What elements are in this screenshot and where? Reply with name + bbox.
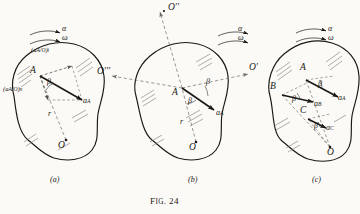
resultant-sub-a: A <box>87 98 90 104</box>
omega-label-a: ω <box>62 34 68 42</box>
beta-arc-b-upper <box>205 86 208 96</box>
alpha-label-a: α <box>62 25 66 33</box>
a-A-sub-c: A <box>342 95 345 101</box>
caption-smallcaps: IG <box>155 198 163 206</box>
axis-label-O-triple-prime-b: O′′′ <box>97 67 110 77</box>
axis-O-double-prime-b <box>160 12 182 88</box>
ref-dir-C-c <box>308 114 330 119</box>
resultant-label-a: aA <box>83 97 90 105</box>
point-label-A-a: A <box>30 66 36 76</box>
point-label-A-b: A <box>172 88 178 98</box>
axis-label-O-prime-b: O′ <box>249 63 258 73</box>
alpha-arrow-a <box>30 31 60 35</box>
panel-label-c: (c) <box>312 176 321 184</box>
radius-line-a <box>40 76 66 140</box>
radius-label-b: r <box>180 118 183 126</box>
beta-label-A-c: β <box>318 80 322 88</box>
alpha-label-c: α <box>328 25 332 33</box>
panel-b-drawing <box>112 10 248 160</box>
alpha-label-b: α <box>238 25 242 33</box>
normal-component-label-a: (aA/O)n <box>3 86 22 93</box>
panel-c-drawing <box>269 29 359 161</box>
point-label-B-c: B <box>270 82 276 92</box>
axis-O-prime-b <box>182 74 248 88</box>
omega-label-b: ω <box>238 34 244 42</box>
hatching-a <box>17 58 93 150</box>
point-label-O-c: O <box>327 148 334 158</box>
normal-comp-a: n <box>20 86 23 92</box>
beta-label-B-c: β <box>292 95 296 103</box>
vector-label-a-C-c: aC <box>326 124 334 132</box>
figure-24: α ω (aA/O)t (aA/O)n A β aA r O O′′ O′ O′… <box>0 0 360 214</box>
beta-label-a: β <box>47 78 51 86</box>
radius-label-a: r <box>48 110 51 118</box>
beta-label-b-lower: β <box>188 97 192 105</box>
point-O-double-prime-b <box>163 10 165 12</box>
panel-label-a: (a) <box>50 176 59 184</box>
tangential-component-label-a: (aA/O)t <box>31 47 49 54</box>
caption-rest: . 24 <box>164 196 179 206</box>
beta-label-b-upper: β <box>206 78 210 86</box>
point-label-A-c: A <box>300 63 306 73</box>
point-label-O-a: O <box>58 141 65 151</box>
a-C-sub-c: C <box>330 125 334 131</box>
radius-OB-c <box>282 95 330 147</box>
point-label-O-b: O <box>189 143 196 153</box>
point-O-a <box>65 139 68 142</box>
omega-label-c: ω <box>328 34 334 42</box>
a-B-sub-c: B <box>318 101 321 107</box>
vector-label-a-B-c: aB <box>314 100 321 108</box>
point-label-C-c: C <box>300 106 306 116</box>
tangential-comp-a: t <box>48 47 50 53</box>
tangential-component-a <box>40 66 72 76</box>
alpha-arrow-c <box>296 29 326 33</box>
vector-label-a-A-c: aA <box>338 94 345 102</box>
body-outline-b <box>135 43 229 160</box>
vector-a-B-c <box>282 95 313 102</box>
resultant-label-b: aA <box>216 109 223 117</box>
panel-label-b: (b) <box>188 176 197 184</box>
vector-a-A-c <box>306 80 338 97</box>
hatching-b <box>141 54 212 146</box>
resultant-sub-b: A <box>220 110 223 116</box>
axis-label-O-double-prime-b: O′′ <box>168 3 179 13</box>
figure-caption: FIG. 24 <box>150 196 179 206</box>
beta-label-C-c: β <box>314 122 318 130</box>
